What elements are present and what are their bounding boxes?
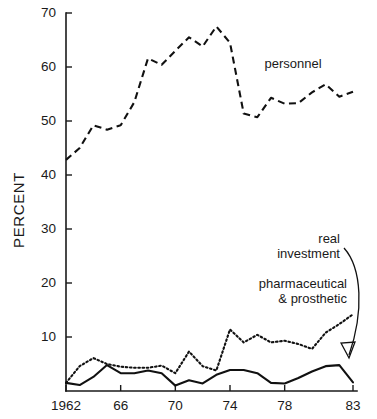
y-tick-label-20: 20 — [41, 275, 56, 290]
y-tick-label-60: 60 — [41, 59, 56, 74]
x-tick-label-1962: 1962 — [51, 398, 81, 413]
label-real-investment-line2: investment — [277, 246, 340, 261]
y-axis-tick-labels: 10203040506070 — [41, 5, 56, 344]
label-pharmaceutical-line1: pharmaceutical — [259, 276, 347, 291]
x-axis-ticks — [66, 385, 353, 391]
y-axis-ticks — [66, 13, 72, 337]
label-personnel: personnel — [264, 56, 321, 71]
percent-line-chart: 10203040506070 19626670747883 PERCENT pe… — [0, 0, 377, 419]
x-tick-label-1983: 83 — [345, 398, 360, 413]
y-tick-label-70: 70 — [41, 5, 56, 20]
x-axis-tick-labels: 19626670747883 — [51, 398, 361, 413]
x-tick-label-1978: 78 — [277, 398, 292, 413]
y-tick-label-40: 40 — [41, 167, 56, 182]
x-tick-label-1970: 70 — [168, 398, 183, 413]
series-line-personnel — [66, 27, 353, 160]
label-real-investment-line1: real — [318, 231, 340, 246]
label-pharmaceutical-line2: & prosthetic — [278, 291, 347, 306]
y-tick-label-50: 50 — [41, 113, 56, 128]
y-axis-title: PERCENT — [10, 172, 27, 248]
y-tick-label-30: 30 — [41, 221, 56, 236]
chart-figure: 10203040506070 19626670747883 PERCENT pe… — [0, 0, 377, 419]
x-tick-label-1974: 74 — [222, 398, 238, 413]
y-tick-label-10: 10 — [41, 329, 56, 344]
series-group — [66, 27, 353, 386]
x-tick-label-1966: 66 — [113, 398, 128, 413]
